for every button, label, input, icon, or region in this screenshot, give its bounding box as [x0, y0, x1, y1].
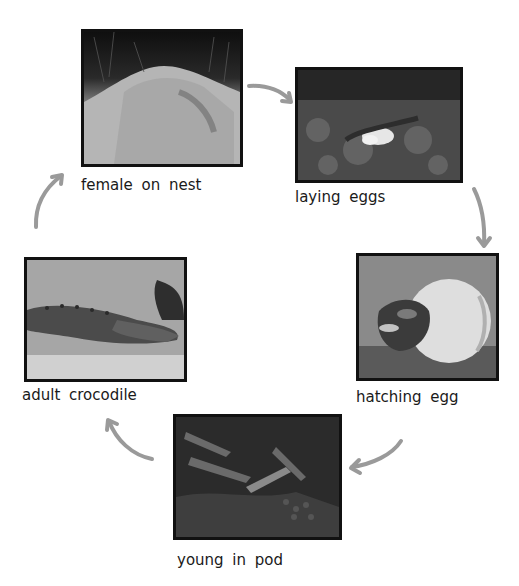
label-laying-eggs: laying eggs	[295, 188, 385, 206]
arrow-nest-to-laying	[249, 86, 291, 102]
photo-hatching-egg	[356, 253, 499, 381]
photo-young-in-pod	[173, 414, 342, 540]
label-adult-crocodile: adult crocodile	[22, 386, 137, 404]
arrow-young-to-adult	[107, 420, 152, 459]
nest-mound-image	[84, 32, 240, 164]
label-young-in-pod: young in pod	[177, 551, 283, 569]
young-in-pod-image	[176, 417, 339, 537]
label-female-on-nest: female on nest	[81, 176, 201, 194]
label-hatching-egg: hatching egg	[356, 388, 459, 406]
arrow-hatching-to-young	[351, 441, 401, 473]
photo-laying-eggs	[295, 67, 463, 183]
arrow-adult-to-nest	[36, 175, 62, 227]
photo-adult-crocodile	[24, 257, 187, 382]
adult-crocodile-image	[27, 260, 184, 379]
laying-eggs-image	[298, 70, 460, 180]
hatching-egg-image	[359, 256, 496, 378]
arrow-laying-to-hatching	[474, 189, 490, 246]
photo-female-on-nest	[81, 29, 243, 167]
crocodile-life-cycle-diagram: female on nest laying eggs hatching egg	[0, 0, 519, 586]
